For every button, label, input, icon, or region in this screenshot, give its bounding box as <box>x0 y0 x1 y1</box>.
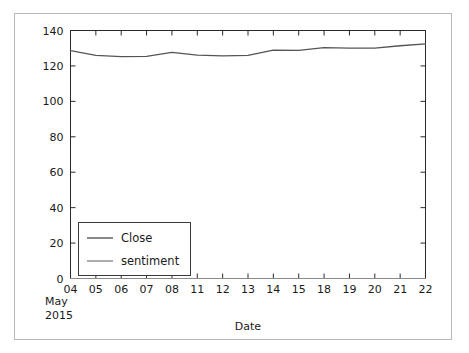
y-tick-label: 60 <box>50 166 64 179</box>
x-tick-label: 14 <box>266 283 280 296</box>
y-tick-label: 140 <box>43 25 64 38</box>
y-tick-label: 20 <box>50 237 64 250</box>
x-axis-offset-month: May <box>45 295 68 308</box>
x-tick-label: 15 <box>292 283 306 296</box>
x-tick-label: 22 <box>419 283 433 296</box>
x-tick-label: 21 <box>393 283 407 296</box>
x-tick-label: 12 <box>216 283 230 296</box>
x-tick-label: 13 <box>241 283 255 296</box>
x-tick-label: 20 <box>368 283 382 296</box>
x-tick-label: 08 <box>165 283 179 296</box>
x-tick-label: 07 <box>140 283 154 296</box>
x-axis-ticks-top <box>71 31 426 36</box>
figure-container: 020406080100120140 040506070811121314151… <box>0 0 469 353</box>
legend-label-close: Close <box>121 231 152 245</box>
y-tick-label: 120 <box>43 60 64 73</box>
x-tick-label: 04 <box>64 283 78 296</box>
x-tick-label: 06 <box>114 283 128 296</box>
legend-label-sentiment: sentiment <box>121 254 180 268</box>
x-axis-ticks: 040506070811121314151819202122 <box>64 274 433 296</box>
x-tick-label: 18 <box>317 283 331 296</box>
x-tick-label: 11 <box>190 283 204 296</box>
y-tick-label: 80 <box>50 131 64 144</box>
chart-canvas[interactable]: 020406080100120140 040506070811121314151… <box>0 0 469 353</box>
legend[interactable]: Close sentiment <box>79 223 191 276</box>
x-tick-label: 19 <box>342 283 356 296</box>
y-tick-label: 100 <box>43 95 64 108</box>
x-tick-label: 05 <box>89 283 103 296</box>
x-axis-offset-year: 2015 <box>45 309 73 322</box>
y-tick-label: 40 <box>50 202 64 215</box>
y-tick-label: 0 <box>57 273 64 286</box>
x-axis-title: Date <box>235 320 262 333</box>
series-line-close <box>71 44 426 57</box>
